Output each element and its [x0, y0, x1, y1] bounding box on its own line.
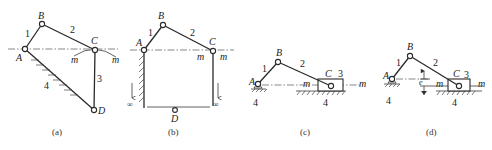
label-link-4-slide: 4: [452, 97, 457, 108]
label-link-1: 1: [148, 27, 153, 38]
label-a: A: [382, 70, 390, 81]
caption-a: (a): [52, 127, 62, 137]
label-link-2: 2: [70, 24, 75, 35]
joint-c: [328, 83, 333, 88]
label-link-2: 2: [433, 57, 438, 68]
crank-link-1: [392, 56, 410, 79]
label-link-4-slide: 4: [323, 97, 328, 108]
label-a: A: [15, 52, 23, 63]
rocker-link-3: [94, 50, 95, 110]
ground-link-4: [25, 49, 94, 110]
joint-b: [407, 53, 412, 58]
joint-c: [456, 83, 461, 88]
label-link-1: 1: [262, 63, 267, 74]
caption-b: (b): [168, 127, 179, 137]
label-link-4-pivot: 4: [386, 95, 391, 106]
label-m-right: m: [112, 54, 119, 65]
crank-link-1: [144, 25, 163, 50]
label-m-right: m: [220, 51, 227, 62]
joint-b: [275, 59, 280, 64]
label-m-left: m: [303, 78, 310, 89]
coupler-link-2: [42, 24, 95, 50]
ground-hatching-b: [139, 55, 144, 102]
label-link-3: 3: [97, 73, 102, 84]
caption-c: (c): [300, 127, 310, 137]
label-m-left: m: [71, 54, 78, 65]
label-link-2: 2: [300, 58, 305, 69]
label-b: B: [276, 47, 282, 58]
label-m-left: m: [436, 78, 443, 89]
label-c: C: [91, 35, 98, 46]
joint-a: [22, 46, 27, 51]
panel-c: B A C 3 1 2 4 4 m m (c): [248, 47, 366, 137]
label-m-right: m: [359, 78, 366, 89]
label-offset-e: e: [419, 78, 423, 87]
label-link-3: 3: [338, 68, 343, 79]
label-d: D: [170, 113, 179, 124]
ground-hatching-a: [31, 60, 78, 95]
joint-a: [389, 76, 394, 81]
joint-c: [210, 48, 215, 53]
panel-b: ∞ ∞ B A C D 1 2 m m (b): [127, 10, 234, 137]
label-infinity-right: ∞: [213, 100, 219, 109]
joint-a: [255, 81, 260, 86]
crank-link-1: [258, 62, 278, 84]
label-link-2: 2: [190, 27, 195, 38]
joint-d: [91, 107, 96, 112]
joint-a: [141, 47, 146, 52]
ground-hatching-slide-c: [297, 91, 345, 95]
panel-d: e B A C 3 1 2 4 4 m m (d): [382, 41, 485, 137]
ground-hatching-pivot-c: [252, 89, 267, 92]
label-infinity-left: ∞: [127, 100, 133, 109]
label-link-1: 1: [25, 28, 30, 39]
offset-arrowhead-down: [421, 91, 427, 95]
label-b: B: [38, 10, 44, 21]
label-link-4-pivot: 4: [253, 97, 258, 108]
coupler-link-2: [163, 25, 213, 51]
panel-a: B A C D 1 2 3 4 m m (a): [8, 10, 119, 137]
ground-hatching-slide-d: [437, 91, 475, 95]
joint-b: [160, 22, 165, 27]
label-link-3: 3: [464, 69, 469, 80]
label-c: C: [325, 68, 332, 79]
label-b: B: [158, 10, 164, 21]
label-m-right: m: [478, 78, 485, 89]
label-link-1: 1: [396, 57, 401, 68]
joint-b: [39, 21, 44, 26]
label-b: B: [407, 41, 413, 52]
ground-hatching-pivot-d: [385, 84, 400, 87]
label-link-4: 4: [44, 80, 49, 91]
label-d: D: [97, 105, 106, 116]
label-a: A: [135, 37, 143, 48]
label-c: C: [209, 36, 216, 47]
caption-d: (d): [426, 127, 437, 137]
joint-c: [92, 47, 97, 52]
joint-d: [173, 108, 178, 113]
label-m-left: m: [197, 51, 204, 62]
mechanism-figure: B A C D 1 2 3 4 m m (a): [0, 0, 492, 150]
label-a: A: [248, 76, 256, 87]
label-c: C: [453, 68, 460, 79]
